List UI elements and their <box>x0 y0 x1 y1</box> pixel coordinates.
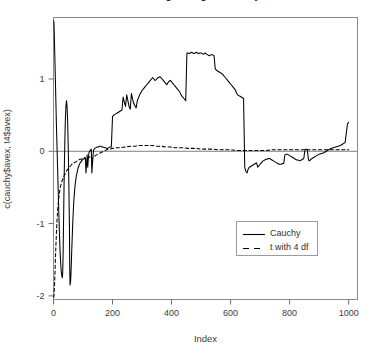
x-tick-label: 0 <box>51 308 56 318</box>
x-tick-label: 400 <box>164 308 179 318</box>
y-tick-label: -2 <box>0 291 45 301</box>
x-tick-label: 1000 <box>339 308 359 318</box>
x-tick-label: 200 <box>105 308 120 318</box>
plot-canvas <box>0 0 377 356</box>
legend-label-t4: t with 4 df <box>270 240 309 254</box>
y-tick-label: -1 <box>0 219 45 229</box>
y-tick-label: 0 <box>0 146 45 156</box>
chart-figure: Running averages: Cauchy vs t c(cauchy$a… <box>0 0 377 356</box>
legend-entry-t4: t with 4 df <box>237 240 319 254</box>
legend-entry-cauchy: Cauchy <box>237 226 319 240</box>
x-tick-label: 600 <box>223 308 238 318</box>
x-tick-label: 800 <box>282 308 297 318</box>
legend-key-dashed-line-icon <box>243 247 265 248</box>
chart-legend: Cauchy t with 4 df <box>236 221 318 256</box>
legend-key-solid-line-icon <box>243 233 265 234</box>
x-axis-title: Index <box>53 333 358 344</box>
legend-label-cauchy: Cauchy <box>270 226 301 240</box>
y-tick-label: 1 <box>0 74 45 84</box>
y-axis-title-text: c(cauchy$avex, t4$avex) <box>2 109 12 209</box>
